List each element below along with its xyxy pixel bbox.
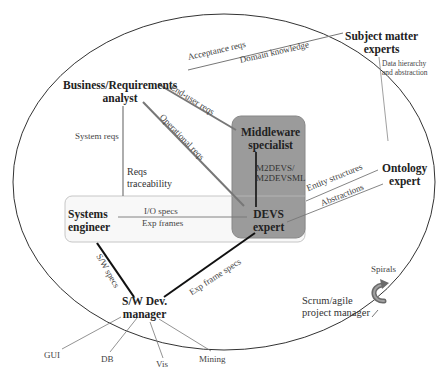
mining-line [159,319,211,351]
m2devs-label: M2DEVS/ M2DEVSML [256,163,306,184]
diagram-canvas [0,0,447,380]
spiral-icon [374,279,389,301]
business-analyst-label: Business/Requirements analyst [63,79,177,105]
ontology-expert-label: Ontology expert [382,162,427,188]
scrum-manager-label: Scrum/agile project manager [302,295,370,319]
systems-engineer-label: Systems engineer [68,208,110,234]
devs-expert-label: DEVS expert [253,208,284,234]
subject-matter-experts-label: Subject matter experts [345,30,418,56]
system-reqs-label: System reqs [75,131,119,141]
db-line [110,318,137,352]
data-hierarchy-label: Data hierarchy and abstraction [382,60,428,77]
io-specs-label: I/O specs [144,206,178,216]
mining-label: Mining [199,354,226,364]
vis-label: Vis [156,359,168,369]
exp-frames-label: Exp frames [142,218,183,228]
db-label: DB [101,354,114,364]
project-boundary-ellipse [13,14,435,350]
gui-line [62,317,121,349]
sw-dev-manager-label: S/W Dev. manager [122,295,167,321]
reqs-traceability-label: Reqs traceability [127,166,172,189]
gui-label: GUI [44,350,60,360]
spirals-label: Spirals [371,264,396,274]
middleware-specialist-label: Middleware specialist [241,126,300,152]
